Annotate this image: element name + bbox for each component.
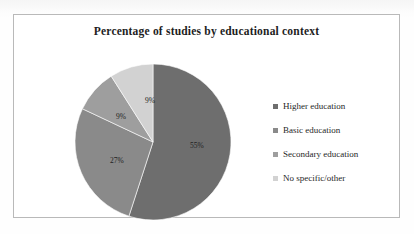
pie-svg <box>74 63 232 221</box>
chart-frame: Percentage of studies by educational con… <box>13 14 400 218</box>
legend-label: Higher education <box>283 101 345 111</box>
legend-item-secondary-education[interactable]: Secondary education <box>273 142 401 166</box>
legend-item-higher-education[interactable]: Higher education <box>273 94 401 118</box>
legend-swatch-icon <box>273 104 278 109</box>
legend-label: No specific/other <box>283 173 345 183</box>
slice-label-higher-education: 55% <box>190 141 204 150</box>
legend-swatch-icon <box>273 128 278 133</box>
chart-title: Percentage of studies by educational con… <box>14 25 399 37</box>
slice-label-secondary-education: 9% <box>116 112 126 121</box>
chart-legend: Higher education Basic education Seconda… <box>273 94 401 190</box>
legend-swatch-icon <box>273 152 278 157</box>
legend-label: Secondary education <box>283 149 358 159</box>
legend-swatch-icon <box>273 176 278 181</box>
legend-label: Basic education <box>283 125 340 135</box>
slice-label-basic-education: 27% <box>110 156 124 165</box>
slice-label-no-specific-other: 9% <box>145 96 155 105</box>
legend-item-no-specific-other[interactable]: No specific/other <box>273 166 401 190</box>
pie-chart: 55% 27% 9% 9% <box>74 63 238 223</box>
legend-item-basic-education[interactable]: Basic education <box>273 118 401 142</box>
chart-page: Percentage of studies by educational con… <box>0 0 414 234</box>
